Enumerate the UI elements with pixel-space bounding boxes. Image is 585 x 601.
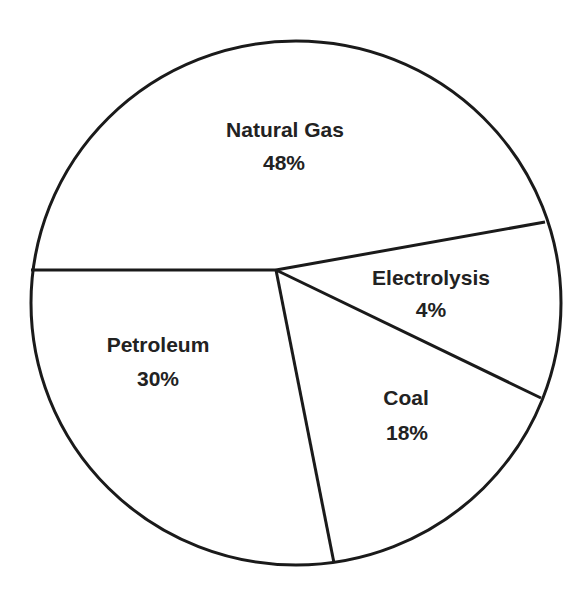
slice-label-petroleum: Petroleum <box>107 333 210 356</box>
slice-pct-electrolysis: 4% <box>416 298 447 321</box>
slice-label-coal: Coal <box>383 386 429 409</box>
pie-chart: Natural Gas 48% Electrolysis 4% Coal 18%… <box>0 0 585 601</box>
slice-pct-coal: 18% <box>386 421 428 444</box>
slice-label-electrolysis: Electrolysis <box>372 266 490 289</box>
slice-pct-petroleum: 30% <box>137 367 179 390</box>
slice-pct-natural-gas: 48% <box>263 151 305 174</box>
slice-label-natural-gas: Natural Gas <box>226 118 344 141</box>
